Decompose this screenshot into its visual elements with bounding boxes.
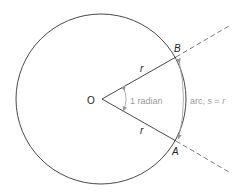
radian-diagram: O B A r r 1 radian arc, s = r [0,0,249,196]
label-center-o: O [87,95,95,106]
label-radius-top: r [140,63,144,74]
diagram-canvas: O B A r r 1 radian arc, s = r [0,0,249,196]
arc-s-indicator [179,61,184,137]
angle-arc [124,89,126,109]
label-angle: 1 radian [130,96,163,106]
extension-a [176,141,229,172]
radius-ob [102,57,176,99]
extension-b [176,26,229,57]
label-radius-bottom: r [140,125,144,136]
label-point-a: A [171,146,179,157]
label-arc: arc, s = r [190,96,226,106]
label-point-b: B [174,43,181,54]
